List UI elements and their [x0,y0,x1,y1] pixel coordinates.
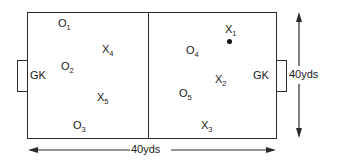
player-o2: O2 [61,61,74,72]
arrow-down-icon [296,128,302,138]
player-o1: O1 [58,18,71,29]
ball-icon [227,39,232,44]
player-x1: X1 [225,24,237,35]
height-dimension-label: 40yds [289,69,318,80]
player-x5: X5 [97,92,109,103]
width-dimension-label: 40yds [131,144,160,155]
player-o4: O4 [186,45,199,56]
left-goalkeeper-label: GK [30,70,46,81]
right-goalkeeper-label: GK [253,70,269,81]
arrow-right-icon [266,147,276,153]
arrow-up-icon [296,12,302,22]
right-goal [276,60,287,92]
halfway-line [148,12,149,139]
player-x4: X4 [102,44,114,55]
player-x2: X2 [215,74,227,85]
arrow-left-icon [28,147,38,153]
left-goal [17,60,28,92]
player-o3: O3 [73,120,86,131]
player-o5: O5 [179,88,192,99]
field-boundary [27,12,277,139]
player-x3: X3 [201,120,213,131]
